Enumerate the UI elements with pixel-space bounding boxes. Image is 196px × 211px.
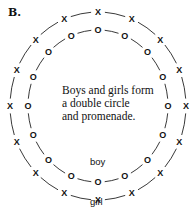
girl-marker: X [157,168,163,178]
girl-marker: X [176,65,182,75]
boy-marker: O [121,31,128,41]
boy-label: boy [90,156,105,167]
caption-line-1: Boys and girls form [62,84,162,97]
boy-marker: O [164,101,171,111]
girl-marker: X [7,101,13,111]
girl-label: girl [90,196,103,207]
girl-marker: X [33,35,39,45]
girl-marker: X [129,14,135,24]
boy-marker: O [68,31,75,41]
boy-marker: O [144,155,151,165]
girl-marker: X [33,168,39,178]
girl-marker: X [157,35,163,45]
girl-marker: X [129,188,135,198]
girl-marker: X [14,137,20,147]
caption-line-3: and promenade. [62,110,162,123]
boy-marker: O [121,171,128,181]
girl-marker: X [61,188,67,198]
boy-marker: O [24,101,31,111]
boy-marker: O [94,25,101,35]
boy-marker: O [45,47,52,57]
boy-marker: O [144,47,151,57]
boy-marker: O [94,177,101,187]
girl-marker: X [61,14,67,24]
boy-marker: O [159,130,166,140]
boy-marker: O [68,171,75,181]
boy-marker: O [45,155,52,165]
caption: Boys and girls form a double circle and … [62,84,162,123]
boy-marker: O [30,130,37,140]
girl-marker: X [14,65,20,75]
girl-marker: X [183,101,189,111]
boy-marker: O [30,72,37,82]
girl-marker: X [176,137,182,147]
boy-marker: O [159,72,166,82]
caption-line-2: a double circle [62,97,162,110]
girl-marker: X [95,7,101,17]
